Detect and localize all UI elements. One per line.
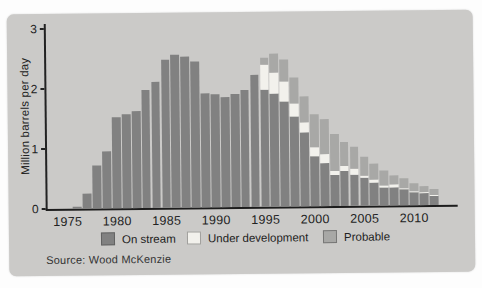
bar-segment	[230, 94, 240, 207]
bar-segment	[250, 75, 260, 207]
bar-2006	[368, 11, 379, 206]
x-tick-label: 1980	[99, 214, 135, 228]
bar-segment	[300, 132, 310, 206]
bar-1981	[121, 13, 132, 208]
y-axis-line	[44, 24, 48, 210]
bar-2001	[319, 11, 330, 206]
bar-segment	[429, 195, 438, 196]
chart-panel: Million barrels per day 0123 19751980198…	[7, 10, 476, 277]
bar-segment	[409, 183, 418, 191]
bar-segment	[279, 60, 288, 82]
bar-segment	[400, 188, 409, 190]
bar-2003	[338, 11, 349, 206]
legend-label: Probable	[344, 230, 390, 242]
bar-segment	[270, 73, 279, 94]
bar-segment	[190, 61, 200, 207]
bar-1988	[190, 12, 201, 207]
bar-segment	[73, 207, 82, 209]
bar-segment	[429, 195, 438, 205]
bar-segment	[419, 186, 428, 191]
bar-segment	[260, 90, 270, 207]
legend-item-under-development: Under development	[187, 230, 309, 244]
bar-segment	[161, 60, 171, 208]
bar-segment	[290, 77, 299, 103]
bar-2008	[388, 10, 399, 205]
bar-1989	[200, 12, 211, 207]
bar-segment	[141, 90, 151, 208]
bar-segment	[290, 104, 299, 117]
bar-1983	[140, 13, 151, 208]
y-tick-label: 1	[16, 143, 38, 155]
bar-1978	[91, 13, 102, 208]
bar-1991	[220, 12, 231, 207]
bar-segment	[419, 193, 428, 205]
bar-segment	[360, 178, 369, 206]
bar-segment	[201, 93, 211, 207]
bar-segment	[260, 65, 269, 90]
y-tick-mark	[40, 88, 45, 90]
bar-segment	[350, 169, 359, 174]
y-tick-label: 3	[15, 23, 37, 35]
legend-label: On stream	[122, 232, 176, 245]
bar-segment	[180, 56, 190, 207]
bar-segment	[151, 82, 161, 208]
bar-1993	[239, 12, 250, 207]
bar-segment	[390, 175, 399, 184]
x-tick-label: 1985	[149, 214, 185, 228]
bar-segment	[310, 147, 319, 155]
y-tick-mark	[39, 28, 44, 30]
bar-segment	[330, 171, 339, 176]
legend-label: Under development	[208, 231, 308, 244]
y-tick-mark	[41, 148, 46, 150]
figure-scan: Million barrels per day 0123 19751980198…	[0, 0, 482, 288]
bar-segment	[380, 185, 389, 187]
bar-segment	[220, 97, 230, 207]
bar-segment	[330, 175, 339, 206]
bar-segment	[280, 101, 290, 206]
legend-item-probable: Probable	[323, 229, 390, 243]
bar-segment	[360, 176, 369, 178]
bar-2004	[348, 11, 359, 206]
bar-1998	[289, 11, 300, 206]
bar-segment	[170, 55, 180, 208]
bar-segment	[240, 90, 250, 207]
bar-segment	[399, 178, 408, 188]
y-tick-label: 2	[15, 83, 37, 95]
bar-2012	[427, 10, 438, 205]
bar-segment	[320, 119, 329, 154]
bar-segment	[330, 134, 339, 171]
x-tick-label: 1990	[198, 213, 234, 227]
bar-1996	[269, 12, 280, 207]
bar-segment	[270, 94, 280, 207]
x-tick-label: 2010	[396, 211, 432, 225]
bar-segment	[320, 154, 329, 162]
bar-segment	[340, 166, 349, 171]
bar-segment	[419, 192, 428, 193]
bar-segment	[370, 183, 379, 206]
bar-segment	[390, 187, 399, 205]
legend-item-on-stream: On stream	[101, 232, 176, 246]
bar-segment	[410, 192, 419, 205]
bar-segment	[310, 114, 319, 147]
bar-segment	[310, 156, 319, 206]
bar-segment	[300, 122, 309, 132]
bar-1979	[101, 13, 112, 208]
bar-segment	[340, 171, 349, 206]
bar-segment	[370, 180, 379, 183]
x-tick-label: 1995	[248, 213, 284, 227]
bar-segment	[429, 189, 438, 194]
bar-segment	[83, 194, 92, 209]
bar-segment	[102, 151, 111, 208]
bar-segment	[390, 184, 399, 187]
x-tick-label: 2000	[297, 212, 333, 226]
bar-1984	[150, 13, 161, 208]
bar-segment	[300, 96, 309, 122]
bar-1994	[249, 12, 260, 207]
bar-1986	[170, 13, 181, 208]
bar-1976	[71, 14, 82, 209]
y-axis-title: Million barrels per day	[18, 41, 32, 191]
bar-segment	[350, 147, 359, 169]
bar-segment	[131, 111, 141, 208]
bar-segment	[370, 164, 379, 180]
on-stream-swatch-icon	[101, 232, 115, 245]
